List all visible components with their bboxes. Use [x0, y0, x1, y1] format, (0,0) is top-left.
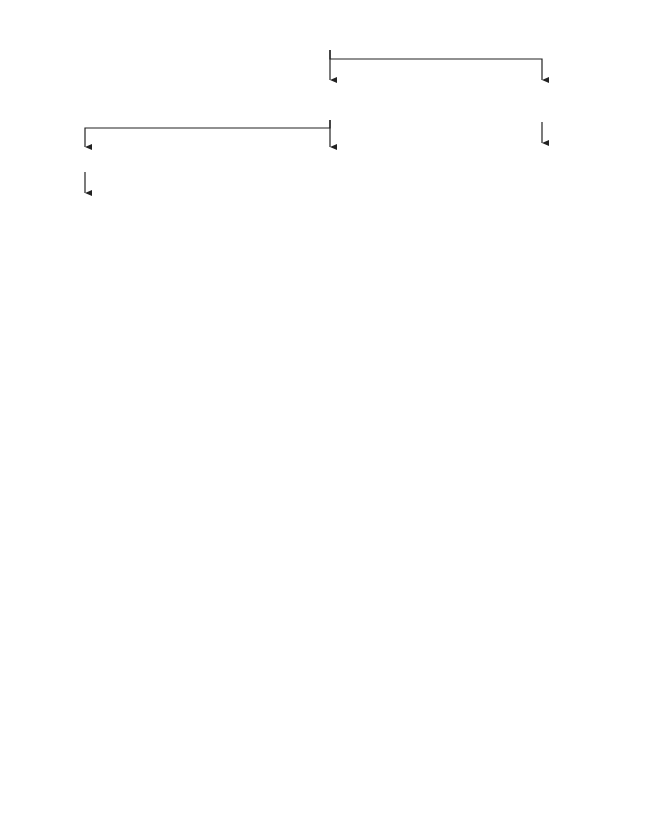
connector-lines — [0, 0, 647, 829]
